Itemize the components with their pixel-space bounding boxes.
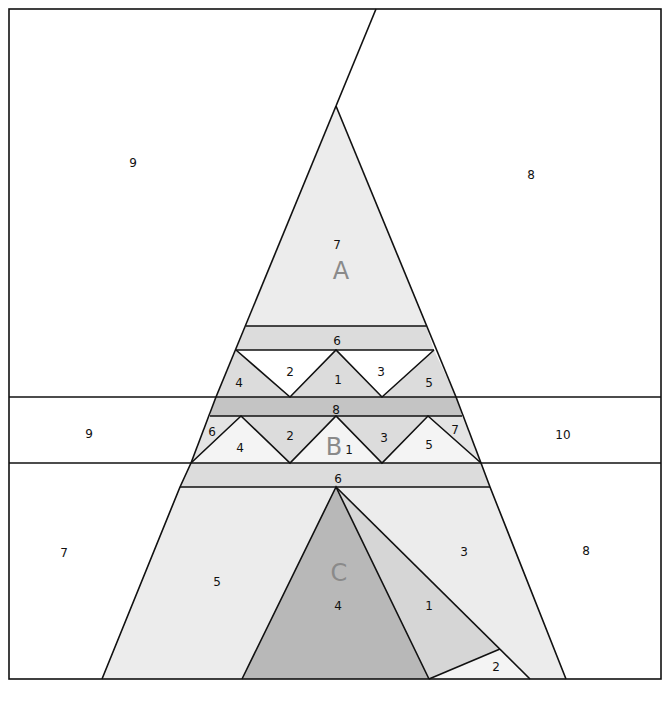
section-b-label-1: 1 [345, 443, 353, 457]
section-a-title: A [333, 257, 350, 285]
section-c-label-3: 3 [460, 545, 468, 559]
section-b-label-6: 6 [208, 425, 216, 439]
section-c-label-8: 8 [582, 544, 590, 558]
section-b-title: B [326, 433, 342, 461]
section-a-label-8: 8 [527, 168, 535, 182]
section-b-label-9: 9 [85, 427, 93, 441]
section-a-label-9: 9 [129, 156, 137, 170]
section-a-label-2: 2 [286, 365, 294, 379]
section-b-label-3: 3 [380, 431, 388, 445]
section-a: 9 8 7 A 6 4 2 1 3 5 [9, 9, 661, 397]
section-a-label-1: 1 [334, 373, 342, 387]
section-c-label-2: 2 [492, 660, 500, 674]
section-c: 7 8 6 5 3 C 4 1 2 [9, 463, 661, 679]
section-b-label-10: 10 [555, 428, 570, 442]
section-c-title: C [331, 559, 348, 587]
section-a-label-4: 4 [235, 376, 243, 390]
pattern-diagram: 9 8 7 A 6 4 2 1 3 5 9 10 8 6 4 2 B 1 3 5… [0, 0, 668, 704]
section-c-label-5: 5 [213, 575, 221, 589]
section-c-label-4: 4 [334, 599, 342, 613]
section-c-label-1: 1 [425, 599, 433, 613]
section-b-label-5: 5 [425, 438, 433, 452]
section-b-piece-9 [9, 397, 216, 463]
section-b: 9 10 8 6 4 2 B 1 3 5 7 [9, 397, 661, 463]
section-c-label-7: 7 [60, 546, 68, 560]
section-b-label-2: 2 [286, 429, 294, 443]
section-a-label-6: 6 [333, 334, 341, 348]
section-a-label-3: 3 [377, 365, 385, 379]
section-a-label-7: 7 [333, 238, 341, 252]
section-a-label-5: 5 [425, 376, 433, 390]
section-b-label-4: 4 [236, 441, 244, 455]
section-c-label-6: 6 [334, 472, 342, 486]
section-b-label-8: 8 [332, 403, 340, 417]
section-b-label-7: 7 [451, 423, 459, 437]
